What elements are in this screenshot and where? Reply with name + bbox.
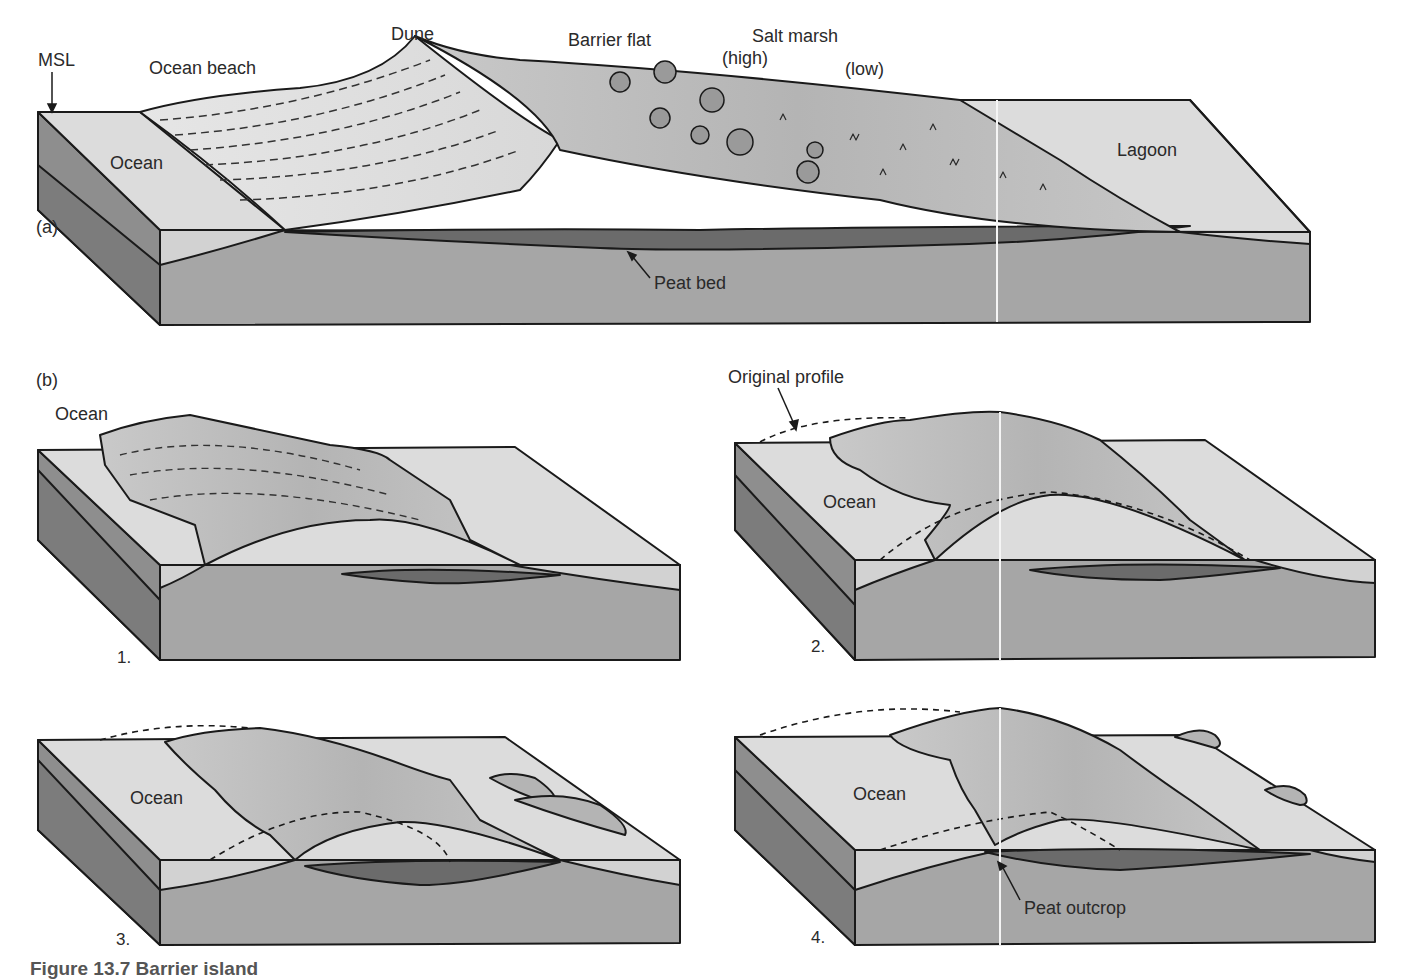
panel-b-tag: (b) [36,370,58,391]
label-barrier-flat: Barrier flat [568,30,651,51]
label-ocean-a: Ocean [110,153,163,174]
label-salt-marsh: Salt marsh [752,26,838,47]
stage-2-number: 2. [811,637,825,657]
label-ocean-beach: Ocean beach [149,58,256,79]
stage-3-block-diagram [38,726,680,945]
label-peat-bed: Peat bed [654,273,726,294]
label-lagoon: Lagoon [1117,140,1177,161]
label-dune: Dune [391,24,434,45]
label-msl: MSL [38,50,75,71]
figure-caption: Figure 13.7 Barrier island [30,958,258,979]
panel-a-tag: (a) [36,217,58,238]
label-ocean-stage-4: Ocean [853,784,906,805]
label-ocean-stage-3: Ocean [130,788,183,809]
barrier-island-figure [0,0,1410,979]
label-original-profile: Original profile [728,367,844,388]
label-salt-marsh-high: (high) [722,48,768,69]
stage-2-block-diagram [735,412,1375,660]
stage-1-block-diagram [38,415,680,660]
label-ocean-stage-1: Ocean [55,404,108,425]
label-salt-marsh-low: (low) [845,59,884,80]
msl-arrow-icon [48,72,56,112]
stage-4-number: 4. [811,928,825,948]
label-peat-outcrop: Peat outcrop [1024,898,1126,919]
stage-1-number: 1. [117,648,131,668]
stage-3-number: 3. [116,930,130,950]
label-ocean-stage-2: Ocean [823,492,876,513]
original-profile-arrow-icon [778,388,798,430]
